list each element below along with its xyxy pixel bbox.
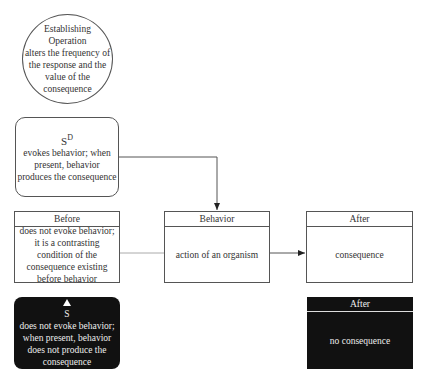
behavior-body: action of an organism — [165, 227, 269, 282]
after-no-consequence-body: no consequence — [307, 312, 413, 369]
s-delta-node: S does not evoke behavior; when present,… — [14, 297, 120, 369]
behavior-header: Behavior — [165, 212, 269, 227]
s-delta-description: does not evoke behavior; when present, b… — [17, 320, 117, 368]
eo-description: alters the frequency of the response and… — [23, 47, 112, 95]
behavior-node: Behavior action of an organism — [164, 211, 270, 283]
delta-triangle-icon — [63, 299, 71, 306]
before-body: does not evoke behavior; it is a contras… — [15, 227, 119, 282]
before-node: Before does not evoke behavior; it is a … — [14, 211, 120, 283]
sd-symbol: SD — [61, 131, 73, 148]
after-header: After — [307, 212, 412, 227]
after-no-consequence-node: After no consequence — [307, 297, 413, 369]
sd-description: evokes behavior; when present, behavior … — [17, 147, 117, 183]
discriminative-stimulus-node: SD evokes behavior; when present, behavi… — [15, 117, 119, 197]
after-node: After consequence — [306, 211, 413, 283]
after-no-consequence-header: After — [307, 297, 413, 312]
eo-title-line2: Operation — [23, 35, 112, 47]
after-body: consequence — [307, 227, 412, 282]
s-delta-symbol: S — [64, 308, 69, 320]
eo-title-line1: Establishing — [23, 23, 112, 35]
establishing-operation-node: Establishing Operation alters the freque… — [22, 14, 113, 104]
